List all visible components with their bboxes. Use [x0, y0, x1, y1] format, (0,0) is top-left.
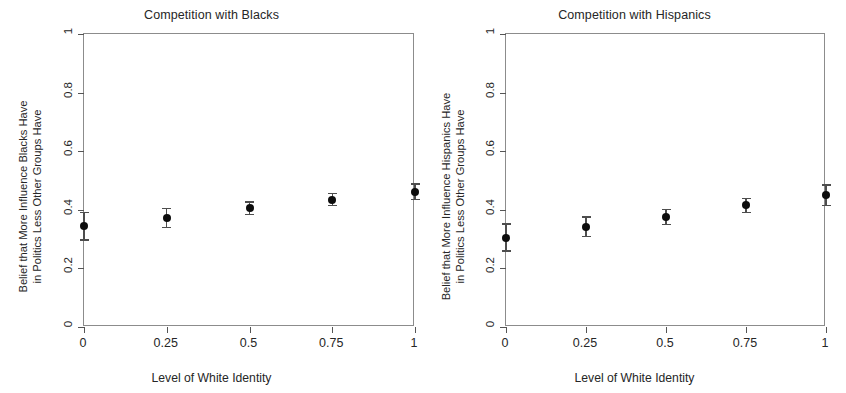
y-tick-label: 0.2	[62, 248, 74, 282]
x-tick-label: 0.25	[573, 336, 597, 350]
y-tick-label: 0.2	[484, 248, 496, 282]
error-bar-cap-lower	[328, 205, 337, 206]
data-point	[80, 222, 88, 230]
x-tick-label: 0	[502, 336, 509, 350]
plot-area-hispanics	[505, 33, 825, 326]
y-axis-label-blacks-text: Belief that More Influence Blacks Have i…	[16, 100, 45, 292]
y-tick-mark	[500, 93, 506, 94]
data-point	[582, 223, 590, 231]
x-tick-mark	[506, 327, 507, 333]
data-point	[163, 214, 171, 222]
x-tick-mark	[586, 327, 587, 333]
y-tick-label: 0.6	[62, 131, 74, 165]
error-bar-cap-upper	[245, 201, 254, 202]
error-bar-cap-upper	[80, 212, 89, 213]
data-point	[822, 191, 830, 199]
x-tick-mark	[666, 327, 667, 333]
x-tick-mark	[167, 327, 168, 333]
error-bar-cap-lower	[502, 250, 511, 251]
y-axis-label-blacks: Belief that More Influence Blacks Have i…	[0, 0, 60, 393]
data-point	[328, 196, 336, 204]
plot-area-blacks	[83, 33, 414, 326]
data-point	[246, 204, 254, 212]
error-bar-cap-lower	[80, 239, 89, 240]
y-tick-mark	[78, 93, 84, 94]
y-axis-label-hispanics-text: Belief that More Influence Hispanics Hav…	[439, 93, 468, 301]
y-tick-label: 0.4	[484, 190, 496, 224]
x-tick-mark	[746, 327, 747, 333]
error-bar-cap-lower	[742, 212, 751, 213]
x-tick-label: 0.75	[733, 336, 757, 350]
error-bar-cap-upper	[502, 223, 511, 224]
x-axis-label-hispanics: Level of White Identity	[423, 371, 846, 385]
data-point	[502, 234, 510, 242]
y-tick-label: 0.8	[484, 73, 496, 107]
y-tick-mark	[78, 151, 84, 152]
x-tick-label: 1	[411, 336, 418, 350]
error-bar-cap-upper	[162, 208, 171, 209]
x-tick-label: 0	[80, 336, 87, 350]
y-tick-mark	[78, 210, 84, 211]
y-tick-label: 0.4	[62, 190, 74, 224]
x-tick-mark	[332, 327, 333, 333]
y-tick-mark	[500, 268, 506, 269]
y-tick-mark	[500, 34, 506, 35]
data-series-hispanics	[506, 34, 824, 325]
error-bar-cap-lower	[411, 199, 420, 200]
x-tick-label: 0.25	[154, 336, 178, 350]
error-bar-cap-lower	[245, 214, 254, 215]
y-tick-label: 0	[62, 307, 74, 341]
y-tick-mark	[500, 151, 506, 152]
x-tick-label: 0.5	[240, 336, 257, 350]
error-bar-cap-lower	[822, 205, 831, 206]
panel-blacks: Competition with Blacks Belief that More…	[0, 0, 423, 393]
y-tick-label: 0.6	[484, 131, 496, 165]
y-axis-label-hispanics: Belief that More Influence Hispanics Hav…	[423, 0, 483, 393]
x-tick-mark	[826, 327, 827, 333]
y-tick-label: 0	[484, 307, 496, 341]
error-bar-cap-upper	[822, 184, 831, 185]
error-bar-cap-lower	[162, 227, 171, 228]
data-series-blacks	[84, 34, 413, 325]
error-bar-cap-upper	[742, 198, 751, 199]
y-tick-label: 0.8	[62, 73, 74, 107]
error-bar-cap-upper	[328, 193, 337, 194]
y-tick-mark	[500, 210, 506, 211]
error-bar-cap-lower	[582, 236, 591, 237]
figure-two-panel-scatter: Competition with Blacks Belief that More…	[0, 0, 846, 393]
data-point	[662, 213, 670, 221]
y-tick-label: 1	[62, 14, 74, 48]
panel-hispanics: Competition with Hispanics Belief that M…	[423, 0, 846, 393]
error-bar-cap-lower	[662, 224, 671, 225]
data-point	[742, 201, 750, 209]
x-tick-mark	[84, 327, 85, 333]
error-bar-cap-upper	[582, 216, 591, 217]
x-tick-mark	[250, 327, 251, 333]
error-bar-cap-upper	[662, 209, 671, 210]
x-tick-label: 1	[822, 336, 829, 350]
x-axis-label-blacks: Level of White Identity	[0, 371, 423, 385]
y-tick-label: 1	[484, 14, 496, 48]
data-point	[411, 188, 419, 196]
x-tick-mark	[415, 327, 416, 333]
y-tick-mark	[78, 268, 84, 269]
error-bar-cap-upper	[411, 183, 420, 184]
y-tick-mark	[78, 34, 84, 35]
x-tick-label: 0.75	[319, 336, 343, 350]
x-tick-label: 0.5	[656, 336, 673, 350]
